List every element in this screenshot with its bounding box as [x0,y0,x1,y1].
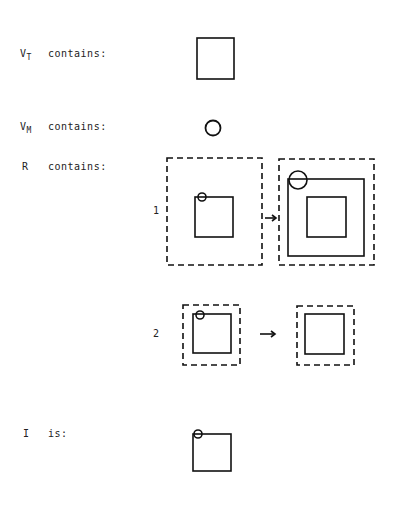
row1-left-square [195,197,233,237]
row1-right-inner-square [307,197,346,237]
row1-right-outer-square [288,179,364,256]
row2-left-circle [196,311,204,319]
diagram-canvas [0,0,393,506]
row1-right-dashed-frame [279,159,374,265]
vt-square-shape [197,38,234,79]
vm-circle-shape [206,121,221,136]
row1-right-circle [289,171,307,189]
row1-left-dashed-frame [167,158,262,265]
i-square-shape [193,434,231,471]
row2-left-square [193,314,231,353]
row2-right-square [305,314,344,354]
